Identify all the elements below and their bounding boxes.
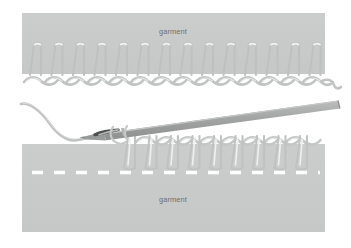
figure-canvas: garment [0, 0, 351, 248]
upper-panel-fabric [22, 13, 325, 74]
upper-garment-label: garment [159, 27, 187, 36]
blanket-stitch-figure: garment [0, 0, 351, 248]
upper-garment-panel: garment [22, 13, 325, 74]
lower-garment-label: garment [159, 195, 187, 204]
